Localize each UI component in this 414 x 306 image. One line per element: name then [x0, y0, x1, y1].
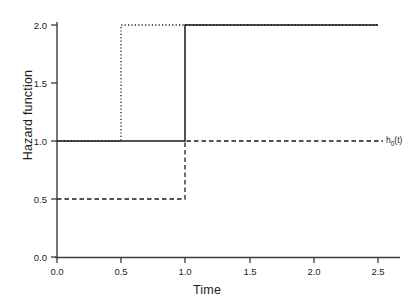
y-tick-label-0-5: 0.5 [13, 194, 47, 205]
series-dashed-step-h0 [57, 141, 383, 199]
x-tick-label-2-0: 2.0 [294, 266, 334, 277]
chart-canvas [0, 0, 414, 306]
x-tick-label-2-5: 2.5 [358, 266, 398, 277]
series-solid-step [57, 25, 378, 141]
y-tick-marks [51, 25, 57, 257]
x-tick-label-1-5: 1.5 [230, 266, 270, 277]
x-tick-label-0-0: 0.0 [37, 266, 77, 277]
series-label-h0-tail: (t) [394, 135, 402, 145]
x-axis-title: Time [0, 283, 414, 297]
hazard-function-chart: 2.0 1.5 1.0 0.5 0.0 0.0 0.5 1.0 1.5 2.0 … [0, 0, 414, 306]
x-tick-label-1-0: 1.0 [165, 266, 205, 277]
y-axis-title: Hazard function [21, 45, 35, 185]
y-tick-label-2-0: 2.0 [13, 20, 47, 31]
y-tick-label-0-0: 0.0 [13, 252, 47, 263]
series-label-h0: h0(t) [386, 135, 402, 147]
x-tick-label-0-5: 0.5 [101, 266, 141, 277]
series-dotted-step [57, 25, 378, 141]
